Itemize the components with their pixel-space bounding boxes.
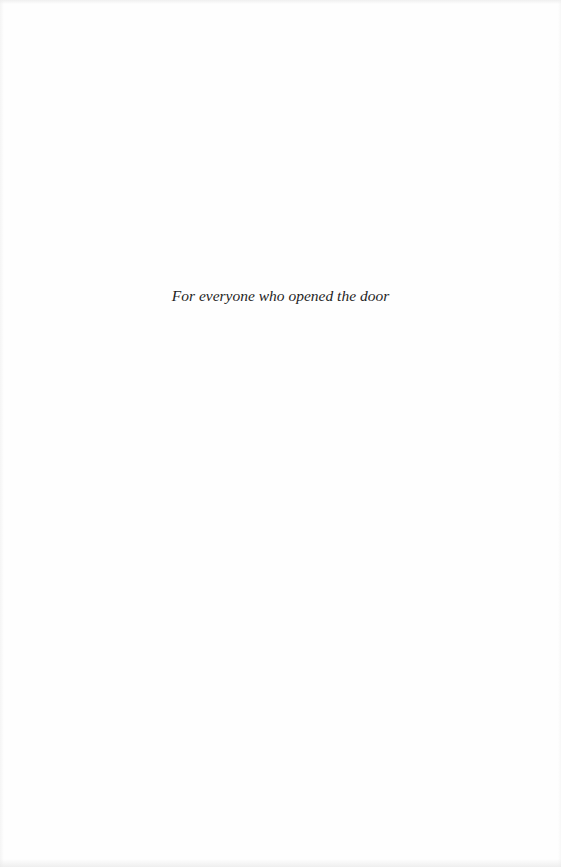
scan-edge-left bbox=[0, 0, 4, 867]
book-page: For everyone who opened the door bbox=[0, 0, 561, 867]
scan-edge-top bbox=[0, 0, 561, 4]
scan-edge-bottom bbox=[0, 859, 561, 867]
dedication-text: For everyone who opened the door bbox=[0, 287, 561, 305]
